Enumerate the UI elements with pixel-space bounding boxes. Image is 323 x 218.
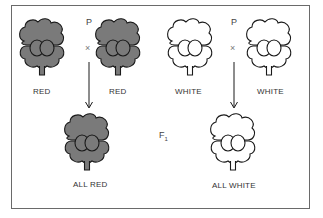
white-flower-icon xyxy=(168,19,212,75)
parent-generation-label: P xyxy=(86,17,92,27)
red-flower-icon xyxy=(20,19,64,75)
white-flower-icon xyxy=(247,19,291,75)
offspring-label: ALL WHITE xyxy=(212,181,256,190)
f1-generation-label: F1 xyxy=(159,130,168,142)
arrow-down-icon xyxy=(231,62,238,108)
parent-label: RED xyxy=(33,87,51,96)
cross-symbol: × xyxy=(230,43,235,53)
cross-symbol: × xyxy=(85,43,90,53)
parent-label: WHITE xyxy=(257,87,284,96)
arrow-down-icon xyxy=(86,62,93,108)
white-offspring-flower-icon xyxy=(211,114,255,170)
red-flower-icon xyxy=(96,19,140,75)
diagram-art xyxy=(0,0,323,218)
parent-label: WHITE xyxy=(175,87,202,96)
parent-generation-label: P xyxy=(231,17,237,27)
parent-label: RED xyxy=(109,87,127,96)
offspring-label: ALL RED xyxy=(73,180,107,189)
red-offspring-flower-icon xyxy=(65,114,109,170)
